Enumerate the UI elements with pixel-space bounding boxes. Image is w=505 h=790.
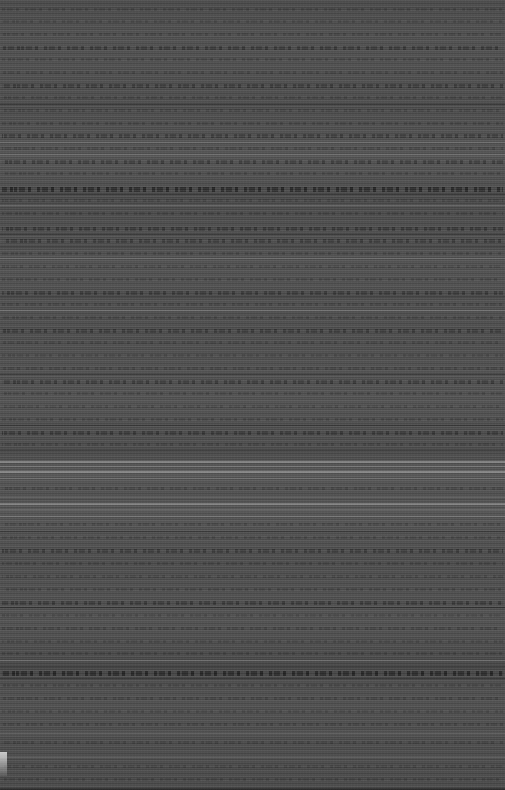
corrupted-screenshot-canvas [0,0,505,790]
background-tone-gradient [0,0,505,790]
